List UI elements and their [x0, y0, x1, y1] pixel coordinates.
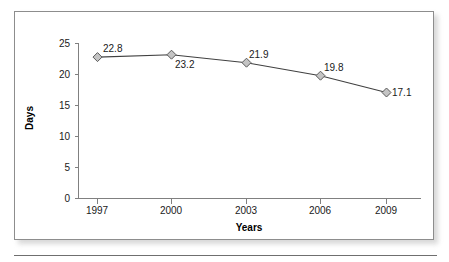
data-label-1997: 22.8 [103, 43, 123, 54]
y-tick-label-20: 20 [59, 69, 71, 80]
series-line [98, 55, 387, 93]
x-axis-title: Years [236, 222, 263, 233]
data-label-2000: 23.2 [175, 59, 195, 70]
y-tick-label-5: 5 [64, 162, 70, 173]
y-tick-label-15: 15 [59, 100, 71, 111]
line-chart: 25 20 15 10 5 0 1997 2000 2003 2006 2009… [0, 0, 449, 262]
x-tick-label-2000: 2000 [160, 205, 183, 216]
y-axis-ticks [75, 44, 79, 199]
data-point-2000 [167, 50, 176, 59]
data-point-2009 [382, 88, 391, 97]
x-tick-label-1997: 1997 [86, 205, 109, 216]
y-tick-label-0: 0 [64, 193, 70, 204]
data-point-1997 [93, 53, 102, 62]
series-markers [93, 50, 391, 97]
y-axis-title: Days [24, 106, 35, 130]
x-tick-label-2003: 2003 [235, 205, 258, 216]
data-label-2009: 17.1 [392, 87, 412, 98]
x-tick-label-2009: 2009 [375, 205, 398, 216]
data-label-2003: 21.9 [249, 49, 269, 60]
y-tick-label-25: 25 [59, 38, 71, 49]
bottom-rule [14, 255, 437, 256]
data-label-2006: 19.8 [324, 62, 344, 73]
y-tick-label-10: 10 [59, 131, 71, 142]
x-tick-label-2006: 2006 [309, 205, 332, 216]
x-axis-ticks [98, 199, 387, 204]
